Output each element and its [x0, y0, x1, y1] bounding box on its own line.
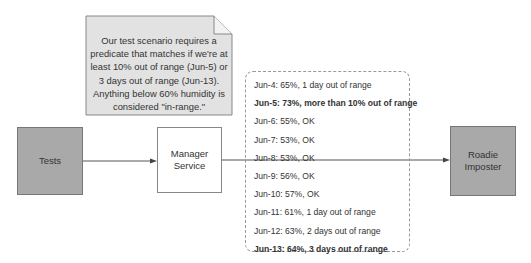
tests-node: Tests — [17, 127, 83, 195]
manager-service-node: Manager Service — [157, 127, 222, 193]
tests-label: Tests — [39, 155, 61, 167]
list-item: Jun-8: 53%, OK — [254, 149, 417, 167]
list-item: Jun-11: 61%, 1 day out of range — [254, 203, 417, 221]
roadie-imposter-node: Roadie Imposter — [450, 126, 516, 196]
note-line: 3 days out of range (Jun-13). — [86, 74, 232, 87]
humidity-list: Jun-4: 65%, 1 day out of range Jun-5: 73… — [254, 76, 417, 258]
roadie-label-line1: Roadie — [465, 149, 502, 161]
note-line: predicate that matches if we're at — [86, 47, 232, 60]
arrow-head-roadie — [443, 158, 450, 163]
list-item: Jun-9: 56%, OK — [254, 167, 417, 185]
manager-label-line1: Manager — [171, 148, 209, 160]
manager-label-line2: Service — [171, 160, 209, 172]
list-item: Jun-13: 64%, 3 days out of range — [254, 240, 417, 258]
list-item: Jun-12: 63%, 2 days out of range — [254, 222, 417, 240]
list-item: Jun-5: 73%, more than 10% out of range — [254, 94, 417, 112]
note-line: least 10% out of range (Jun-5) or — [86, 60, 232, 73]
list-item: Jun-6: 55%, OK — [254, 112, 417, 130]
arrow-head-manager — [150, 159, 157, 164]
list-item: Jun-10: 57%, OK — [254, 185, 417, 203]
list-item: Jun-7: 53%, OK — [254, 131, 417, 149]
note-line: Anything below 60% humidity is — [86, 87, 232, 100]
list-item: Jun-4: 65%, 1 day out of range — [254, 76, 417, 94]
roadie-label-line2: Imposter — [465, 161, 502, 173]
note-text: Our test scenario requires a predicate t… — [86, 34, 232, 113]
note-line: considered "in-range." — [86, 100, 232, 113]
note-line: Our test scenario requires a — [86, 34, 232, 47]
